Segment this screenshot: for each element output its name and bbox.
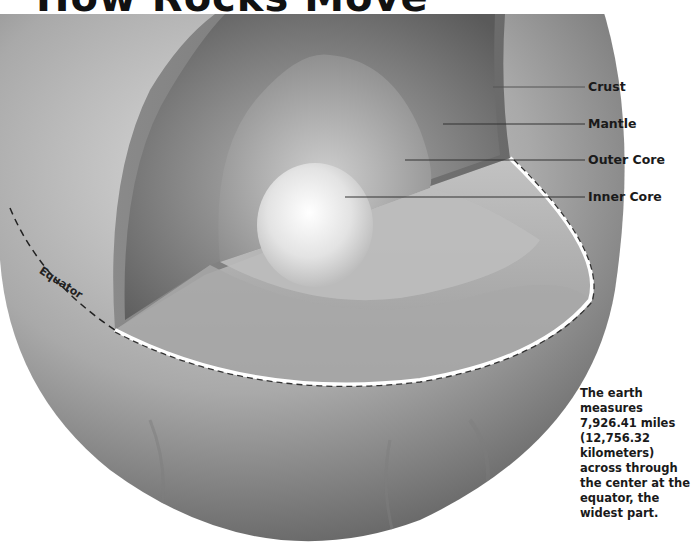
outer-core-label: Outer Core [588,152,665,167]
earth-measurement-note: The earth measures 7,926.41 miles (12,75… [580,386,696,521]
inner-core-label: Inner Core [588,189,662,204]
inner-core-sphere [257,163,373,287]
mantle-label: Mantle [588,116,637,131]
crust-label: Crust [588,79,626,94]
